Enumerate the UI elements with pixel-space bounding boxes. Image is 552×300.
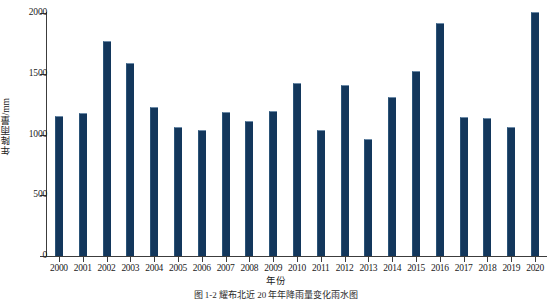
x-tick-mark xyxy=(273,257,274,262)
bar-2003 xyxy=(126,63,134,256)
x-tick-mark xyxy=(511,257,512,262)
x-tick-mark xyxy=(83,257,84,262)
bar-2014 xyxy=(388,97,396,256)
x-tick-mark xyxy=(130,257,131,262)
y-tick-label: 2000 xyxy=(9,8,47,18)
bar-2010 xyxy=(293,83,301,256)
x-tick-mark xyxy=(297,257,298,262)
bar-2011 xyxy=(317,130,325,256)
x-tick-mark xyxy=(535,257,536,262)
bar-2008 xyxy=(245,121,253,256)
bar-2017 xyxy=(460,117,468,256)
x-tick-mark xyxy=(487,257,488,262)
y-tick-label: 0 xyxy=(9,251,47,261)
y-tick-label: 1000 xyxy=(9,130,47,140)
bar-2000 xyxy=(55,116,63,256)
x-tick-mark xyxy=(392,257,393,262)
bar-2019 xyxy=(507,127,515,256)
bar-2013 xyxy=(364,139,372,256)
bar-2012 xyxy=(341,85,349,256)
bar-2018 xyxy=(483,118,491,256)
x-tick-label-2020: 2020 xyxy=(520,263,550,274)
bar-2015 xyxy=(412,71,420,256)
bar-2004 xyxy=(150,107,158,256)
bar-2009 xyxy=(269,111,277,256)
x-tick-mark xyxy=(178,257,179,262)
y-tick-label: 500 xyxy=(9,190,47,200)
x-tick-mark xyxy=(321,257,322,262)
bar-2007 xyxy=(222,112,230,256)
figure-caption: 图 1-2 耀布北近 20 年年降雨量变化雨水图 xyxy=(0,290,552,300)
x-tick-mark xyxy=(345,257,346,262)
x-tick-mark xyxy=(440,257,441,262)
x-tick-mark xyxy=(59,257,60,262)
bar-2001 xyxy=(79,113,87,256)
x-tick-mark xyxy=(249,257,250,262)
x-axis-title: 年份 xyxy=(0,276,552,287)
bar-2006 xyxy=(198,130,206,256)
x-tick-mark xyxy=(107,257,108,262)
bar-2016 xyxy=(436,23,444,256)
x-tick-mark xyxy=(416,257,417,262)
y-tick-label: 1500 xyxy=(9,69,47,79)
bar-2002 xyxy=(103,41,111,256)
x-tick-mark xyxy=(368,257,369,262)
x-tick-mark xyxy=(464,257,465,262)
y-axis-title: 年降雨量/mm xyxy=(1,98,12,155)
bar-2020 xyxy=(531,12,539,256)
x-tick-mark xyxy=(202,257,203,262)
x-tick-mark xyxy=(154,257,155,262)
bar-2005 xyxy=(174,127,182,256)
x-tick-mark xyxy=(226,257,227,262)
